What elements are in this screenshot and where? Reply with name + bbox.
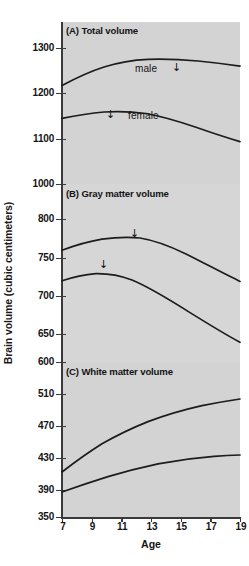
- xtick-label-19: 19: [231, 521, 249, 532]
- panel-c-curves: [0, 0, 249, 566]
- panel-c-female-curve: [62, 455, 240, 492]
- x-axis-title: Age: [62, 538, 240, 550]
- xtick-label-17: 17: [201, 521, 221, 532]
- figure-container: Brain volume (cubic centimeters) (A) Tot…: [0, 0, 249, 566]
- xtick-label-13: 13: [142, 521, 162, 532]
- panel-c-male-curve: [62, 399, 240, 472]
- xtick-label-11: 11: [112, 521, 132, 532]
- xtick-label-15: 15: [172, 521, 192, 532]
- xtick-label-7: 7: [53, 521, 73, 532]
- xtick-label-9: 9: [83, 521, 103, 532]
